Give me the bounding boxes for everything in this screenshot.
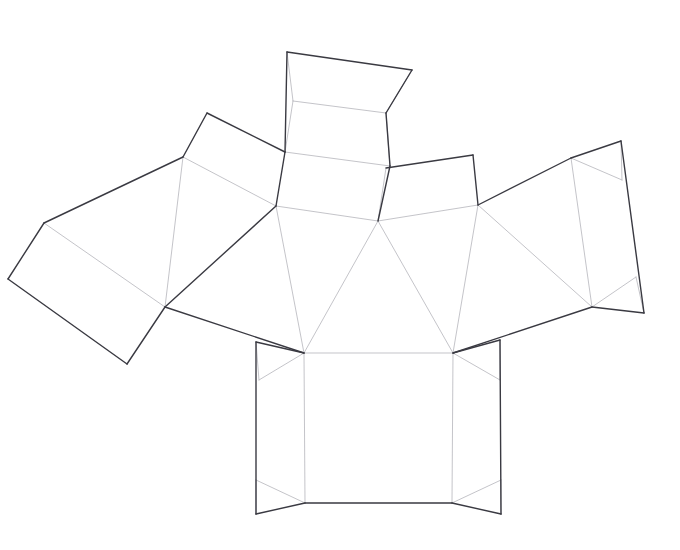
net-face-base-left-flap bbox=[256, 342, 305, 514]
outer-edge-1 bbox=[285, 52, 287, 152]
diagram-canvas bbox=[0, 0, 680, 550]
net-face-base-square bbox=[304, 353, 453, 503]
polyhedron-net-svg bbox=[0, 0, 680, 550]
faces-layer bbox=[8, 52, 644, 514]
